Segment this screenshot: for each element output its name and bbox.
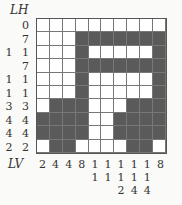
grid-cell[interactable] bbox=[63, 73, 76, 86]
grid-cell[interactable] bbox=[37, 86, 50, 99]
grid-cell[interactable] bbox=[140, 73, 153, 86]
grid-cell[interactable] bbox=[63, 32, 76, 45]
grid-cell[interactable] bbox=[127, 86, 140, 99]
grid-cell[interactable] bbox=[50, 140, 63, 153]
grid-cell[interactable] bbox=[89, 86, 102, 99]
grid-cell[interactable] bbox=[114, 99, 127, 112]
grid-cell[interactable] bbox=[101, 126, 114, 139]
grid-cell[interactable] bbox=[50, 32, 63, 45]
grid-cell[interactable] bbox=[89, 113, 102, 126]
grid-cell[interactable] bbox=[63, 59, 76, 72]
grid-cell[interactable] bbox=[76, 32, 89, 45]
grid-cell[interactable] bbox=[101, 86, 114, 99]
grid-cell[interactable] bbox=[114, 140, 127, 153]
grid-cell[interactable] bbox=[50, 59, 63, 72]
grid-cell[interactable] bbox=[153, 19, 166, 32]
grid-cell[interactable] bbox=[76, 86, 89, 99]
grid-cell[interactable] bbox=[37, 73, 50, 86]
grid-cell[interactable] bbox=[153, 46, 166, 59]
grid-cell[interactable] bbox=[37, 19, 50, 32]
grid-cell[interactable] bbox=[153, 86, 166, 99]
grid-cell[interactable] bbox=[63, 140, 76, 153]
grid-cell[interactable] bbox=[153, 73, 166, 86]
grid-cell[interactable] bbox=[153, 99, 166, 112]
grid-cell[interactable] bbox=[140, 99, 153, 112]
grid-cell[interactable] bbox=[114, 19, 127, 32]
grid-cell[interactable] bbox=[101, 32, 114, 45]
grid-cell[interactable] bbox=[50, 86, 63, 99]
grid-cell[interactable] bbox=[127, 32, 140, 45]
grid-cell[interactable] bbox=[101, 73, 114, 86]
grid-cell[interactable] bbox=[114, 126, 127, 139]
grid-cell[interactable] bbox=[63, 19, 76, 32]
grid-cell[interactable] bbox=[153, 126, 166, 139]
grid-cell[interactable] bbox=[50, 19, 63, 32]
grid-cell[interactable] bbox=[89, 126, 102, 139]
grid-cell[interactable] bbox=[63, 113, 76, 126]
grid-cell[interactable] bbox=[37, 99, 50, 112]
grid-cell[interactable] bbox=[114, 46, 127, 59]
grid-cell[interactable] bbox=[37, 32, 50, 45]
grid-cell[interactable] bbox=[140, 19, 153, 32]
grid-cell[interactable] bbox=[114, 86, 127, 99]
grid-cell[interactable] bbox=[140, 113, 153, 126]
grid-cell[interactable] bbox=[37, 59, 50, 72]
grid-cell[interactable] bbox=[76, 46, 89, 59]
grid-cell[interactable] bbox=[89, 140, 102, 153]
grid-cell[interactable] bbox=[114, 113, 127, 126]
grid-cell[interactable] bbox=[140, 86, 153, 99]
grid-cell[interactable] bbox=[89, 46, 102, 59]
grid-cell[interactable] bbox=[127, 19, 140, 32]
grid-cell[interactable] bbox=[37, 113, 50, 126]
grid-cell[interactable] bbox=[153, 113, 166, 126]
grid-cell[interactable] bbox=[76, 113, 89, 126]
grid-cell[interactable] bbox=[127, 113, 140, 126]
grid-cell[interactable] bbox=[127, 140, 140, 153]
grid-cell[interactable] bbox=[140, 59, 153, 72]
grid-cell[interactable] bbox=[89, 32, 102, 45]
grid-cell[interactable] bbox=[127, 59, 140, 72]
grid-cell[interactable] bbox=[153, 32, 166, 45]
grid-cell[interactable] bbox=[114, 73, 127, 86]
grid-cell[interactable] bbox=[63, 126, 76, 139]
grid-cell[interactable] bbox=[89, 73, 102, 86]
grid-cell[interactable] bbox=[127, 46, 140, 59]
grid-cell[interactable] bbox=[50, 99, 63, 112]
grid-cell[interactable] bbox=[140, 126, 153, 139]
grid-cell[interactable] bbox=[76, 126, 89, 139]
grid-cell[interactable] bbox=[127, 73, 140, 86]
grid-cell[interactable] bbox=[127, 126, 140, 139]
grid-cell[interactable] bbox=[50, 46, 63, 59]
grid-cell[interactable] bbox=[153, 59, 166, 72]
grid-cell[interactable] bbox=[76, 59, 89, 72]
grid-cell[interactable] bbox=[63, 46, 76, 59]
grid-cell[interactable] bbox=[37, 140, 50, 153]
grid-cell[interactable] bbox=[76, 99, 89, 112]
grid-cell[interactable] bbox=[76, 140, 89, 153]
grid-cell[interactable] bbox=[37, 126, 50, 139]
grid-cell[interactable] bbox=[153, 140, 166, 153]
grid-cell[interactable] bbox=[89, 59, 102, 72]
grid-cell[interactable] bbox=[50, 73, 63, 86]
grid-cell[interactable] bbox=[101, 113, 114, 126]
grid-cell[interactable] bbox=[101, 140, 114, 153]
grid-cell[interactable] bbox=[114, 59, 127, 72]
grid-cell[interactable] bbox=[140, 46, 153, 59]
grid-cell[interactable] bbox=[89, 99, 102, 112]
grid-cell[interactable] bbox=[63, 99, 76, 112]
grid-cell[interactable] bbox=[37, 46, 50, 59]
grid-cell[interactable] bbox=[50, 126, 63, 139]
grid-cell[interactable] bbox=[101, 59, 114, 72]
grid-cell[interactable] bbox=[101, 19, 114, 32]
grid-cell[interactable] bbox=[140, 140, 153, 153]
grid-cell[interactable] bbox=[89, 19, 102, 32]
grid-cell[interactable] bbox=[63, 86, 76, 99]
grid-cell[interactable] bbox=[50, 113, 63, 126]
grid-cell[interactable] bbox=[76, 19, 89, 32]
grid-cell[interactable] bbox=[101, 46, 114, 59]
grid-cell[interactable] bbox=[76, 73, 89, 86]
grid-cell[interactable] bbox=[101, 99, 114, 112]
grid-cell[interactable] bbox=[140, 32, 153, 45]
grid-cell[interactable] bbox=[114, 32, 127, 45]
grid-cell[interactable] bbox=[127, 99, 140, 112]
